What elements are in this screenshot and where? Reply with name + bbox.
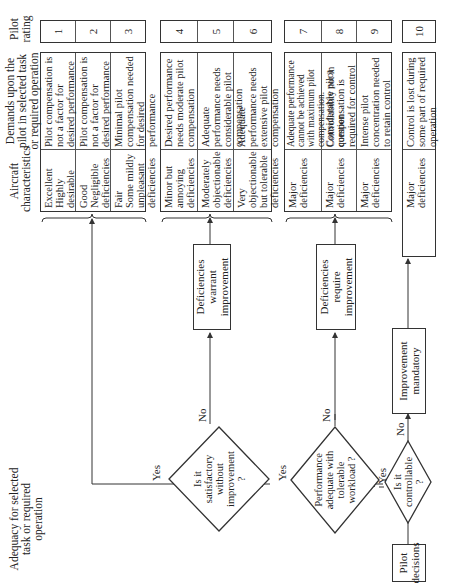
demands-cell: Minimal pilot compensation needed for de…: [111, 53, 145, 150]
deficiencies-warrant-box: Deficiencies warrant improvement: [193, 244, 231, 330]
demands-cell: Adequate performance needs extensive pil…: [234, 53, 271, 150]
header-adequacy: Adequacy for selected task or required o…: [8, 464, 44, 574]
header-rating: Pilot rating: [8, 14, 32, 44]
demands-cell: Adequate performance needs considerable …: [198, 53, 233, 150]
no-label: No: [196, 409, 208, 422]
demands-cell: Control is lost during some part of requ…: [403, 53, 435, 150]
yes-label: Yes: [376, 468, 388, 484]
yes-label: Yes: [150, 465, 162, 481]
header-demands: Demands upon the pilot in selected task …: [4, 52, 40, 150]
demands-cell: Intense pilot concentration needed to re…: [357, 53, 391, 150]
group-3-table: Major deficiencies Adequate performance …: [284, 52, 392, 212]
aircraft-cell: Good Negligible deficiencies: [76, 150, 110, 211]
aircraft-cell: Major deficiencies: [322, 150, 356, 211]
no-label: No: [394, 423, 406, 436]
controllable-question: Is it controllable ?: [392, 454, 424, 510]
rating-9: 9: [357, 21, 391, 42]
group-1-table: Excellent Highly desirable Pilot compens…: [40, 52, 146, 212]
group-2-table: Minor but annoying deficiencies Desired …: [160, 52, 272, 212]
yes-label: Yes: [276, 465, 288, 481]
performance-diamond: Performance adequate with tolerable work…: [290, 426, 380, 534]
aircraft-cell: Major deficiencies: [285, 150, 321, 211]
rating-1: 1: [41, 21, 75, 42]
demands-cell: Considerable pilot compensation is requi…: [322, 53, 356, 150]
rating-4: 4: [161, 21, 197, 42]
group-4-table: Major deficiencies Control is lost durin…: [402, 52, 436, 257]
rating-10: 10: [403, 21, 435, 42]
aircraft-cell: Very objectionable but tolerable deficie…: [234, 150, 271, 211]
demands-cell: Pilot compensation is not a factor for d…: [41, 53, 75, 150]
satisfactory-question: Is it satisfactory without improvement ?: [192, 448, 246, 510]
rating-7: 7: [285, 21, 321, 42]
group-2-ratings: 4 5 6: [160, 20, 272, 43]
demands-cell: Adequate performance cannot be achieved …: [285, 53, 321, 150]
no-label: No: [320, 409, 332, 422]
aircraft-cell: Major deficiencies: [357, 150, 391, 211]
rating-6: 6: [234, 21, 271, 42]
aircraft-cell: Major deficiencies: [403, 150, 435, 211]
improvement-mandatory-box: Improvement mandatory: [392, 328, 426, 414]
cooper-harper-diagram: Adequacy for selected task or required o…: [0, 0, 459, 584]
header-aircraft: Aircraft characteristics: [8, 150, 32, 212]
deficiencies-require-box: Deficiencies require improvement: [316, 244, 356, 330]
group-4-ratings: 10: [402, 20, 436, 43]
demands-cell: Pilot compensation is not a factor for d…: [76, 53, 110, 150]
performance-question: Performance adequate with tolerable work…: [308, 448, 362, 512]
aircraft-cell: Fair Some mildly unpleasant deficiencies: [111, 150, 145, 211]
group-3-ratings: 7 8 9: [284, 20, 392, 43]
aircraft-cell: Moderately objectionable deficiencies: [198, 150, 233, 211]
demands-cell: Desired performance needs moderate pilot…: [161, 53, 197, 150]
controllable-diamond: Is it controllable ?: [384, 440, 432, 524]
satisfactory-diamond: Is it satisfactory without improvement ?: [168, 426, 270, 532]
pilot-decisions-box: Pilot decisions: [392, 544, 426, 582]
aircraft-cell: Excellent Highly desirable: [41, 150, 75, 211]
rating-2: 2: [76, 21, 110, 42]
rating-5: 5: [198, 21, 233, 42]
rating-8: 8: [322, 21, 356, 42]
group-1-ratings: 1 2 3: [40, 20, 146, 43]
rating-3: 3: [111, 21, 145, 42]
aircraft-cell: Minor but annoying deficiencies: [161, 150, 197, 211]
